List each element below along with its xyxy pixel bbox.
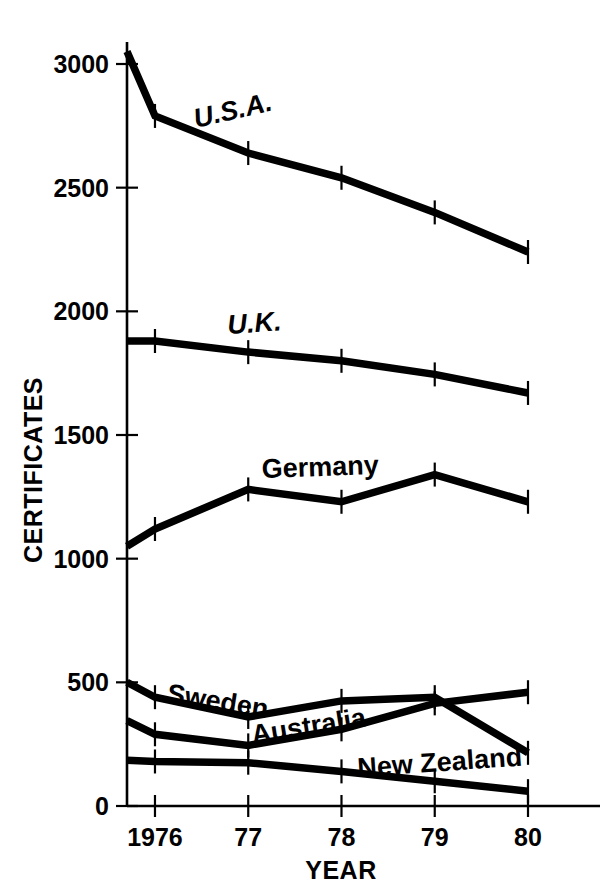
- chart-page: 050010001500200025003000 197677787980 CE…: [0, 0, 605, 888]
- series-label-germany: Germany: [261, 450, 379, 484]
- y-tick-label: 3000: [53, 50, 109, 78]
- y-tick-label: 2000: [53, 297, 109, 325]
- y-axis-tick-labels: 050010001500200025003000: [53, 50, 109, 820]
- y-tick-label: 2500: [53, 174, 109, 202]
- x-axis-tick-labels: 197677787980: [127, 823, 542, 851]
- series-labels: U.S.A.U.K.GermanySwedenAustraliaNew Zeal…: [165, 87, 523, 783]
- y-tick-label: 1500: [53, 421, 109, 449]
- x-tick-label: 80: [514, 823, 542, 851]
- series-label-sweden: Sweden: [165, 678, 270, 724]
- x-tick-label: 77: [234, 823, 262, 851]
- series-label-new-zealand: New Zealand: [356, 742, 523, 783]
- series-line-u-k: [127, 341, 528, 393]
- x-tick-label: 78: [328, 823, 356, 851]
- y-tick-label: 0: [95, 792, 109, 820]
- x-tick-label: 79: [421, 823, 449, 851]
- series-label-u-s-a: U.S.A.: [191, 87, 275, 134]
- y-axis-title: CERTIFICATES: [19, 377, 47, 563]
- y-tick-label: 500: [67, 668, 109, 696]
- line-chart: 050010001500200025003000 197677787980 CE…: [0, 0, 605, 888]
- x-axis-title: YEAR: [305, 856, 376, 884]
- series-line-u-s-a: [127, 52, 528, 252]
- y-tick-label: 1000: [53, 545, 109, 573]
- series-line-germany: [127, 475, 528, 547]
- x-tick-label: 1976: [127, 823, 183, 851]
- series-label-u-k: U.K.: [226, 306, 282, 340]
